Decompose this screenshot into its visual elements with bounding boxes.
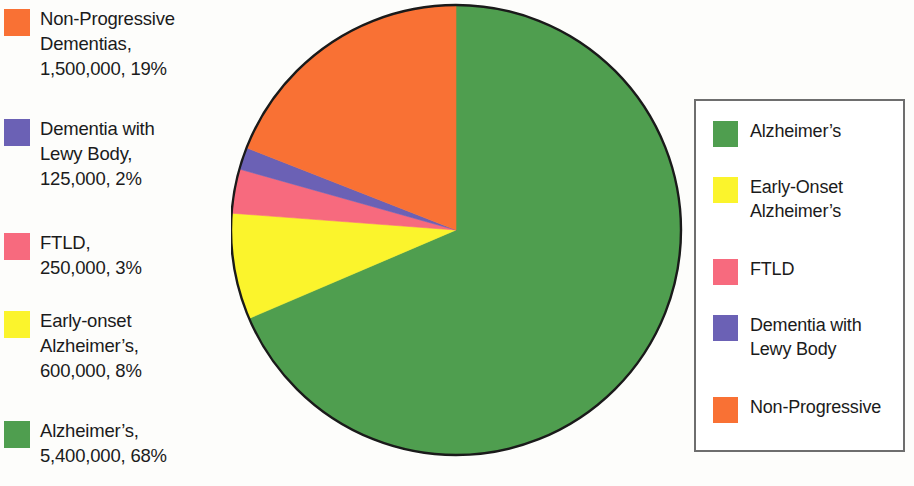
data-label-ftld: FTLD, 250,000, 3% [4, 230, 142, 280]
pie-chart-figure: Non-Progressive Dementias, 1,500,000, 19… [0, 0, 914, 486]
legend-swatch-alzheimers-icon [713, 121, 738, 147]
legend-item-list: Alzheimer’s Early-Onset Alzheimer’s FTLD… [696, 101, 903, 450]
pie-chart-svg [231, 0, 686, 486]
data-label-text: Early-onset Alzheimer’s, 600,000, 8% [40, 308, 142, 383]
legend-item-label: Alzheimer’s [750, 119, 841, 143]
data-label-text: Non-Progressive Dementias, 1,500,000, 19… [40, 6, 175, 81]
legend-swatch-non-progressive-icon [713, 397, 738, 423]
legend-swatch-early-onset-icon [713, 177, 738, 203]
data-label-text: Dementia with Lewy Body, 125,000, 2% [40, 116, 155, 191]
data-label-lewy-body: Dementia with Lewy Body, 125,000, 2% [4, 116, 155, 191]
swatch-non-progressive-icon [4, 9, 30, 36]
pie-slice-group [231, 5, 681, 455]
data-label-non-progressive: Non-Progressive Dementias, 1,500,000, 19… [4, 6, 175, 81]
swatch-ftld-icon [4, 233, 30, 260]
legend-item-label: FTLD [750, 257, 794, 281]
legend-item-alzheimers[interactable]: Alzheimer’s [713, 119, 841, 147]
legend-item-label: Non-Progressive [750, 395, 881, 419]
legend-item-label: Early-Onset Alzheimer’s [750, 175, 843, 223]
legend-item-label: Dementia with Lewy Body [750, 313, 861, 361]
data-label-early-onset: Early-onset Alzheimer’s, 600,000, 8% [4, 308, 142, 383]
legend-box: Alzheimer’s Early-Onset Alzheimer’s FTLD… [694, 99, 905, 452]
data-label-text: Alzheimer’s, 5,400,000, 68% [40, 418, 167, 468]
swatch-lewy-body-icon [4, 119, 30, 146]
data-label-text: FTLD, 250,000, 3% [40, 230, 142, 280]
legend-item-early-onset[interactable]: Early-Onset Alzheimer’s [713, 175, 843, 223]
legend-swatch-ftld-icon [713, 259, 738, 285]
data-label-alzheimers: Alzheimer’s, 5,400,000, 68% [4, 418, 167, 468]
legend-item-ftld[interactable]: FTLD [713, 257, 794, 285]
legend-swatch-lewy-body-icon [713, 315, 738, 341]
swatch-alzheimers-icon [4, 421, 30, 448]
swatch-early-onset-icon [4, 311, 30, 338]
legend-item-lewy-body[interactable]: Dementia with Lewy Body [713, 313, 861, 361]
data-label-column: Non-Progressive Dementias, 1,500,000, 19… [0, 0, 238, 486]
legend-item-non-progressive[interactable]: Non-Progressive [713, 395, 881, 423]
pie-chart [231, 0, 686, 486]
